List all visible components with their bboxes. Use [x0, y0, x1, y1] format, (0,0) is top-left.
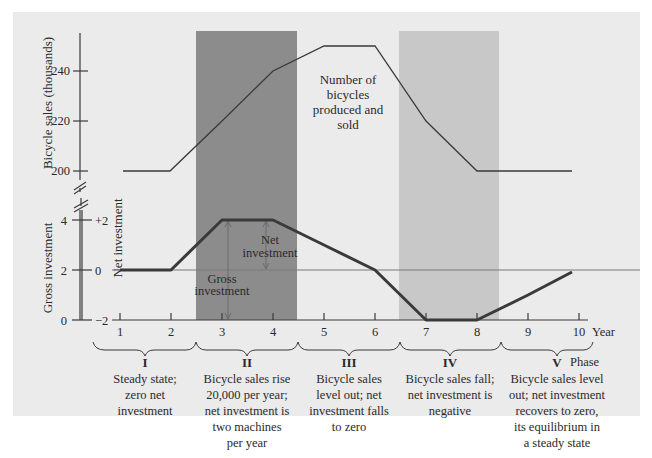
phase-i-numeral: I — [95, 355, 195, 371]
svg-text:+2: +2 — [95, 214, 108, 228]
svg-text:4: 4 — [270, 325, 277, 339]
svg-text:3: 3 — [219, 325, 225, 339]
svg-text:10: 10 — [573, 325, 586, 339]
svg-text:sold: sold — [337, 117, 359, 132]
phase-v-description: Bicycle sales level out; net investment … — [492, 371, 622, 451]
svg-text:0: 0 — [61, 314, 67, 328]
x-axis-title: Year — [592, 325, 616, 339]
phase-iv-numeral: IV — [400, 355, 500, 371]
svg-text:0: 0 — [95, 264, 101, 278]
svg-text:9: 9 — [525, 325, 531, 339]
svg-text:4: 4 — [61, 214, 68, 228]
svg-text:investment: investment — [195, 284, 250, 298]
svg-text:Number of: Number of — [320, 72, 377, 87]
phase-ii-numeral: II — [197, 355, 297, 371]
phase-iv-band — [399, 31, 499, 320]
net-investment-axis-label: Net investment — [110, 198, 125, 277]
svg-text:produced and: produced and — [313, 102, 384, 117]
top-y-axis-label: Bicycle sales (thousands) — [40, 37, 55, 169]
gross-investment-axis-label: Gross investment — [40, 222, 55, 313]
svg-text:investment: investment — [243, 246, 298, 260]
svg-text:6: 6 — [372, 325, 378, 339]
svg-text:2: 2 — [168, 325, 174, 339]
svg-text:bicycles: bicycles — [327, 87, 370, 102]
phase-iii-numeral: III — [299, 355, 399, 371]
svg-text:Net: Net — [261, 233, 280, 247]
svg-text:5: 5 — [321, 325, 327, 339]
svg-text:2: 2 — [61, 264, 67, 278]
svg-text:7: 7 — [423, 325, 429, 339]
svg-text:1: 1 — [117, 325, 123, 339]
svg-text:−2: −2 — [95, 314, 108, 328]
svg-text:8: 8 — [474, 325, 480, 339]
phase-v-numeral: V — [507, 355, 607, 371]
